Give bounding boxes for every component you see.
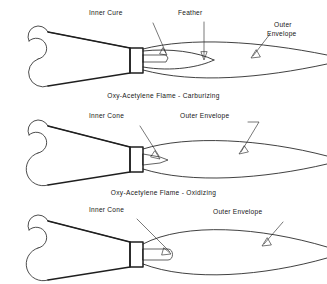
label-outer-envelope: Outer Envelope <box>213 208 262 217</box>
carburizing-flame-drawing <box>0 0 327 106</box>
oxidizing-flame-drawing <box>0 104 327 200</box>
outer-envelope-shape <box>143 141 327 179</box>
torch-nozzle <box>26 120 143 186</box>
caption-carburizing: Oxy-Acetylene Flame - Carburizing <box>0 92 327 99</box>
figure-oxidizing-flame: Inner Cone Outer Envelope Oxy-Acetylene … <box>0 104 327 200</box>
label-feather: Feather <box>178 9 202 18</box>
outer-envelope-shape <box>143 230 327 275</box>
caption-oxidizing: Oxy-Acetylene Flame - Oxidizing <box>0 189 327 196</box>
inner-cure-shape <box>143 55 168 62</box>
neutral-flame-drawing <box>0 200 327 284</box>
figure-carburizing-flame: Inner Cure Feather Outer Envelope Oxy-Ac… <box>0 0 327 106</box>
label-outer-envelope-line2: Envelope <box>267 30 297 39</box>
figure-neutral-flame: Inner Cone Outer Envelope <box>0 200 327 284</box>
torch-nozzle <box>26 215 143 281</box>
inner-cone-shape <box>143 154 168 165</box>
label-inner-cure: Inner Cure <box>89 9 123 18</box>
label-inner-cone: Inner Cone <box>89 206 124 215</box>
feather-shape <box>143 50 214 69</box>
label-outer-envelope: Outer Envelope <box>180 112 229 121</box>
leader-lines <box>153 22 270 60</box>
torch-nozzle <box>28 26 143 87</box>
outer-envelope-shape <box>143 42 327 78</box>
label-outer-envelope-line1: Outer <box>274 21 292 30</box>
label-inner-cone: Inner Cone <box>89 112 124 121</box>
